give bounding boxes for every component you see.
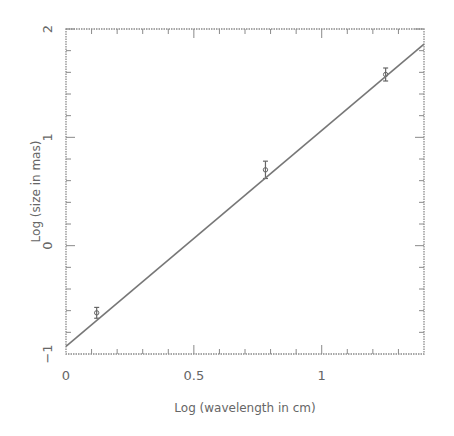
x-tick-label: 0	[62, 368, 70, 383]
y-tick-label: 1	[40, 133, 55, 141]
plot-frame	[66, 29, 424, 354]
y-tick-label: −1	[40, 344, 55, 363]
x-tick-label: 0.5	[184, 368, 205, 383]
fit-line	[66, 44, 424, 346]
chart: 00.51−1012Log (wavelength in cm)Log (siz…	[0, 0, 454, 436]
x-tick-label: 1	[318, 368, 326, 383]
y-tick-label: 2	[40, 25, 55, 33]
y-axis-title: Log (size in mas)	[29, 141, 43, 243]
x-axis-title: Log (wavelength in cm)	[174, 401, 315, 415]
